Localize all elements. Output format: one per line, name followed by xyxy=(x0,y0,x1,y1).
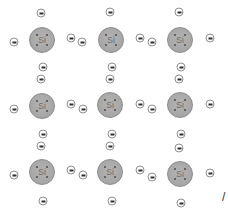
minus-sign-icon xyxy=(208,37,212,39)
minus-sign-icon xyxy=(110,133,114,135)
electron-icon xyxy=(78,38,87,47)
electron-icon xyxy=(106,142,115,151)
bond-dot-icon xyxy=(46,176,48,178)
electron-icon xyxy=(79,105,88,114)
minus-sign-icon xyxy=(81,174,85,176)
minus-sign-icon xyxy=(179,202,183,204)
minus-sign-icon xyxy=(108,78,112,80)
bond-dot-icon xyxy=(46,110,48,112)
bond-dot-icon xyxy=(115,44,117,46)
electron-icon xyxy=(177,63,186,72)
silicon-atom: Si xyxy=(29,27,55,53)
minus-sign-icon xyxy=(69,169,73,171)
minus-sign-icon xyxy=(150,41,154,43)
silicon-atom: Si xyxy=(97,92,123,118)
minus-sign-icon xyxy=(110,200,114,202)
electron-icon xyxy=(108,130,117,139)
minus-sign-icon xyxy=(81,108,85,110)
silicon-atom: Si xyxy=(98,27,124,53)
minus-sign-icon xyxy=(39,78,43,80)
minus-sign-icon xyxy=(179,66,183,68)
minus-sign-icon xyxy=(39,145,43,147)
electron-icon xyxy=(148,173,157,182)
electron-icon xyxy=(39,197,48,206)
electron-icon xyxy=(10,171,19,180)
electron-icon xyxy=(136,34,145,43)
electron-icon xyxy=(39,130,48,139)
electron-icon xyxy=(10,105,19,114)
minus-sign-icon xyxy=(108,11,112,13)
minus-sign-icon xyxy=(41,133,45,135)
electron-icon xyxy=(37,75,46,84)
silicon-atom: Si xyxy=(97,159,123,185)
bond-dot-icon xyxy=(184,178,186,180)
minus-sign-icon xyxy=(179,133,183,135)
bond-dot-icon xyxy=(114,176,116,178)
electron-icon xyxy=(175,8,184,17)
electron-icon xyxy=(37,9,46,18)
minus-sign-icon xyxy=(108,145,112,147)
silicon-atom: Si xyxy=(167,92,193,118)
minus-sign-icon xyxy=(69,103,73,105)
atom-label: Si xyxy=(98,101,122,110)
atom-label: Si xyxy=(99,36,123,45)
minus-sign-icon xyxy=(12,174,16,176)
bond-dot-icon xyxy=(46,44,48,46)
minus-sign-icon xyxy=(110,66,114,68)
minus-sign-icon xyxy=(80,41,84,43)
bond-dot-icon xyxy=(184,109,186,111)
silicon-atom: Si xyxy=(29,159,55,185)
electron-icon xyxy=(108,197,117,206)
minus-sign-icon xyxy=(12,108,16,110)
minus-sign-icon xyxy=(41,200,45,202)
bond-dot-icon xyxy=(114,109,116,111)
minus-sign-icon xyxy=(39,12,43,14)
electron-icon xyxy=(10,38,19,47)
atom-label: Si xyxy=(168,101,192,110)
electron-icon xyxy=(177,130,186,139)
electron-icon xyxy=(106,75,115,84)
minus-sign-icon xyxy=(41,66,45,68)
electron-icon xyxy=(106,8,115,17)
minus-sign-icon xyxy=(150,176,154,178)
electron-icon xyxy=(175,144,184,153)
electron-icon xyxy=(67,34,76,43)
electron-icon xyxy=(177,199,186,208)
minus-sign-icon xyxy=(138,169,142,171)
electron-icon xyxy=(108,63,117,72)
electron-icon xyxy=(37,142,46,151)
electron-icon xyxy=(136,100,145,109)
minus-sign-icon xyxy=(12,41,16,43)
silicon-atom: Si xyxy=(167,161,193,187)
electron-icon xyxy=(39,63,48,72)
electron-icon xyxy=(206,169,215,178)
minus-sign-icon xyxy=(177,11,181,13)
minus-sign-icon xyxy=(138,103,142,105)
minus-sign-icon xyxy=(177,147,181,149)
electron-icon xyxy=(67,166,76,175)
minus-sign-icon xyxy=(177,78,181,80)
electron-icon xyxy=(67,100,76,109)
electron-icon xyxy=(79,171,88,180)
minus-sign-icon xyxy=(138,37,142,39)
electron-icon xyxy=(206,34,215,43)
silicon-atom: Si xyxy=(167,27,193,53)
atom-label: Si xyxy=(168,36,192,45)
cropped-edge-glyph: / xyxy=(222,191,225,203)
electron-icon xyxy=(175,75,184,84)
electron-icon xyxy=(148,38,157,47)
silicon-lattice-diagram: SiSiSiSiSiSiSiSiSi / xyxy=(0,0,228,210)
atom-label: Si xyxy=(30,36,54,45)
electron-icon xyxy=(136,166,145,175)
minus-sign-icon xyxy=(208,172,212,174)
electron-icon xyxy=(206,100,215,109)
atom-label: Si xyxy=(30,102,54,111)
atom-label: Si xyxy=(168,170,192,179)
minus-sign-icon xyxy=(150,108,154,110)
minus-sign-icon xyxy=(69,37,73,39)
minus-sign-icon xyxy=(208,103,212,105)
silicon-atom: Si xyxy=(29,93,55,119)
electron-icon xyxy=(148,105,157,114)
atom-label: Si xyxy=(30,168,54,177)
bond-dot-icon xyxy=(184,44,186,46)
